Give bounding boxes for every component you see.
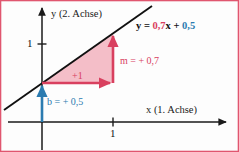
x-tick-label-1: 1 (110, 128, 116, 139)
y-axis-label: y (2. Achse) (51, 9, 102, 20)
equation-label: y = 0,7x + 0,5 (136, 21, 195, 32)
run-annotation: +1 (72, 71, 83, 81)
figure-border (1, 1, 239, 152)
linear-function-figure: y (2. Achse) x (1. Achse) 1 1 y = 0,7x +… (0, 0, 239, 152)
x-axis-label: x (1. Achse) (146, 105, 197, 116)
equation-intercept-value: 0,5 (182, 20, 195, 31)
equation-plus: + (171, 20, 182, 31)
equation-slope-value: 0,7 (152, 20, 165, 31)
y-tick-label-1: 1 (27, 38, 33, 49)
equation-lhs: y = (136, 20, 152, 31)
plot-canvas (0, 0, 239, 152)
intercept-annotation: b = + 0,5 (47, 97, 83, 107)
slope-annotation: m = + 0,7 (120, 56, 159, 66)
